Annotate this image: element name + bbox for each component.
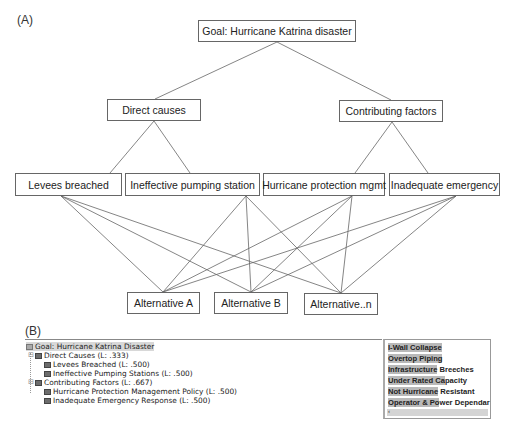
tree-item-label: Hurricane Protection Management Policy (… <box>53 387 237 396</box>
scroll-left-icon[interactable]: ‹ <box>388 408 390 414</box>
alternative-n: Alternative..n <box>304 293 378 315</box>
node-icon <box>35 353 42 359</box>
alternative-b: Alternative B <box>214 292 288 314</box>
node-icon <box>44 398 51 404</box>
collapse-icon[interactable]: ⊟ <box>28 351 34 359</box>
node-icon <box>35 380 42 386</box>
panel-item-not-hurricane-resistant[interactable]: Not Hurricane Resistant <box>388 387 475 397</box>
collapse-icon[interactable]: ⊟ <box>28 378 34 386</box>
hierarchy-tree: Goal: Hurricane Katrina Disaster ⊟ Direc… <box>25 339 382 408</box>
tree-item-ineffective-pumping[interactable]: Ineffective Pumping Stations (L: .500) <box>44 369 193 378</box>
criterion-contributing-factors: Contributing factors <box>339 100 443 122</box>
panel-item-infrastructure-breeches[interactable]: Infrastructure Breeches <box>388 365 474 375</box>
node-icon <box>44 362 51 368</box>
tree-guide-line <box>30 353 31 393</box>
panel-item-operator-power-dependency[interactable]: Operator & Power Dependar <box>388 398 490 408</box>
tree-item-inadequate-emergency[interactable]: Inadequate Emergency Response (L: .500) <box>44 396 210 405</box>
tree-item-label: Ineffective Pumping Stations (L: .500) <box>53 369 193 378</box>
tree-item-label: Contributing Factors (L: .667) <box>44 378 152 387</box>
section-b-label: (B) <box>25 324 41 338</box>
criterion-direct-causes: Direct causes <box>107 99 201 121</box>
panel-item-under-rated-capacity[interactable]: Under Rated Capacity <box>388 376 467 386</box>
node-icon <box>26 344 33 350</box>
tree-item-hurricane-protection[interactable]: Hurricane Protection Management Policy (… <box>44 387 237 396</box>
subcriterion-ineffective-pumping: Ineffective pumping station <box>125 173 260 196</box>
subcriterion-inadequate-emergency: Inadequate emergency <box>389 173 500 196</box>
tree-item-label: Goal: Hurricane Katrina Disaster <box>35 342 154 351</box>
node-icon <box>44 389 51 395</box>
tree-item-goal[interactable]: Goal: Hurricane Katrina Disaster <box>26 342 154 351</box>
goal-node: Goal: Hurricane Katrina disaster <box>198 20 356 42</box>
panel-item-overtop-piping[interactable]: Overtop Piping <box>388 354 442 364</box>
alternative-a: Alternative A <box>127 292 200 314</box>
tree-item-label: Inadequate Emergency Response (L: .500) <box>53 396 210 405</box>
tree-item-levees-breached[interactable]: Levees Breached (L: .500) <box>44 360 150 369</box>
panel-item-iwall-collapse[interactable]: I-Wall Collapse <box>388 343 442 353</box>
alternatives-panel: I-Wall Collapse Overtop Piping Infrastru… <box>383 339 491 419</box>
subcriterion-levees-breached: Levees breached <box>15 173 122 196</box>
tree-item-label: Levees Breached (L: .500) <box>53 360 150 369</box>
tree-item-contributing-factors[interactable]: Contributing Factors (L: .667) <box>35 378 152 387</box>
tree-item-direct-causes[interactable]: Direct Causes (L: .333) <box>35 351 129 360</box>
subcriterion-hurricane-protection: Hurricane protection mgmt <box>263 173 385 196</box>
horizontal-scrollbar[interactable]: ‹ <box>387 409 488 416</box>
tree-item-label: Direct Causes (L: .333) <box>44 351 129 360</box>
node-icon <box>44 371 51 377</box>
